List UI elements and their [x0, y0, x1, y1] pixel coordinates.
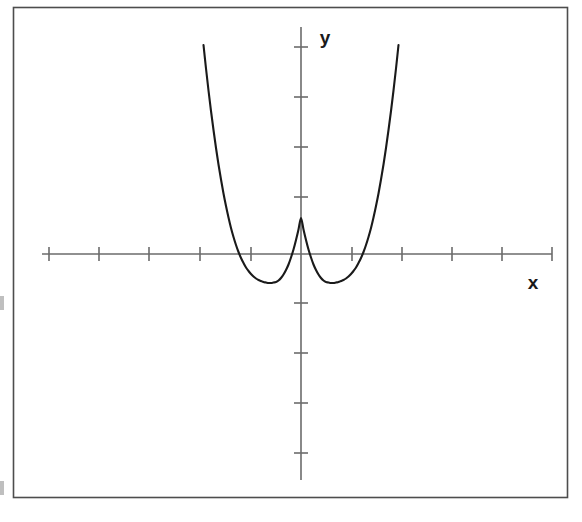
y-axis-label: y [320, 27, 331, 48]
scan-artifact-bottom [0, 481, 4, 495]
figure-frame [14, 8, 568, 498]
graph-plot: x y [0, 0, 582, 522]
x-axis-label: x [528, 272, 539, 293]
figure-container: x y [0, 0, 582, 522]
scan-artifact-top [0, 296, 4, 310]
